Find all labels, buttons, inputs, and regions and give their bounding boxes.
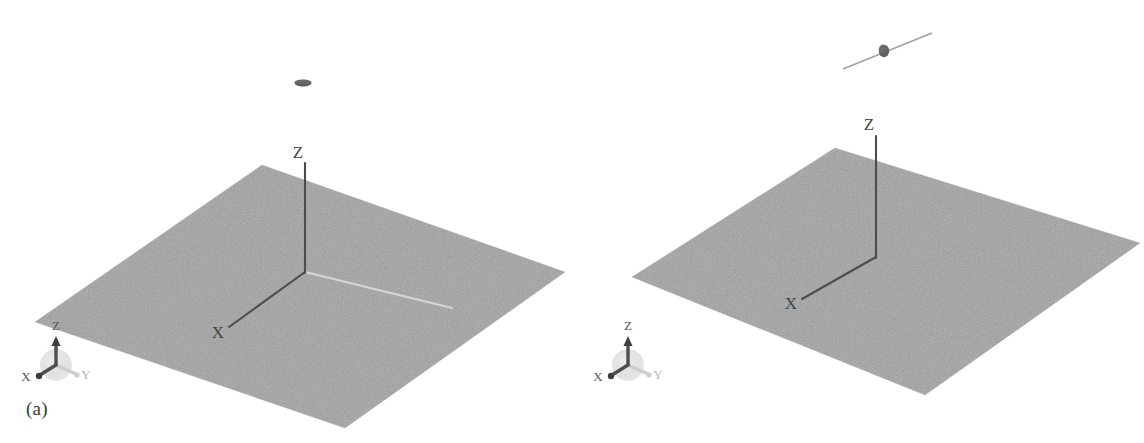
figure-root: Z X Z X Y (a) [0,0,1144,443]
probe-rod-a [295,30,312,140]
triad-y-label-a: Y [81,367,91,382]
triad-z-label-a: Z [52,318,60,333]
orientation-triad-b[interactable]: Z X Y [593,318,663,384]
triad-y-label-b: Y [653,367,663,382]
x-axis-label-a: X [212,323,224,342]
x-axis-label-b: X [785,294,797,313]
z-axis-label-b: Z [864,115,874,134]
z-axis-label-a: Z [293,143,303,162]
panel-b-scene: Z X Z X Y [572,0,1144,443]
panel-caption-a: (a) [26,398,48,420]
rough-plane-a [35,165,565,428]
triad-z-label-b: Z [624,318,632,333]
probe-rod-b [843,33,932,69]
panel-a: Z X Z X Y (a) [0,0,572,443]
panel-a-scene: Z X Z X Y [0,0,572,443]
rough-plane-b [632,148,1140,395]
triad-x-label-b: X [593,369,603,384]
triad-x-label-a: X [21,369,31,384]
panel-b: Z X Z X Y (b) [572,0,1144,443]
